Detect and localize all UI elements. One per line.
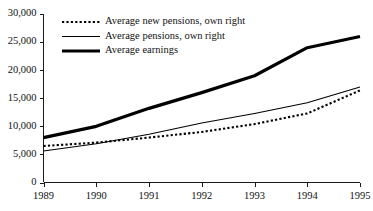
chart-svg: 05,00010,00015,00020,00025,00030,000 198… xyxy=(0,0,373,211)
y-tick-label: 15,000 xyxy=(8,92,37,103)
x-tick-label: 1990 xyxy=(86,190,107,201)
y-tick-label: 10,000 xyxy=(8,120,37,131)
y-tick-label: 30,000 xyxy=(8,7,37,18)
legend-label-2: Average earnings xyxy=(105,44,178,55)
x-tick-label: 1994 xyxy=(297,190,319,201)
x-tick-label: 1989 xyxy=(33,190,54,201)
chart-legend: Average new pensions, own rightAverage p… xyxy=(62,15,245,55)
y-tick-label: 0 xyxy=(31,176,36,187)
x-tick-label: 1991 xyxy=(139,190,160,201)
y-tick-label: 5,000 xyxy=(13,148,37,159)
x-tick-label: 1992 xyxy=(191,190,212,201)
y-axis-group: 05,00010,00015,00020,00025,00030,000 xyxy=(8,7,44,187)
legend-label-0: Average new pensions, own right xyxy=(105,15,245,26)
line-chart: 05,00010,00015,00020,00025,00030,000 198… xyxy=(0,0,373,211)
y-tick-label: 20,000 xyxy=(8,64,37,75)
legend-label-1: Average pensions, own right xyxy=(105,30,225,41)
x-axis-group: 1989199019911992199319941995 xyxy=(33,183,371,201)
y-tick-label: 25,000 xyxy=(8,35,37,46)
x-tick-group: 1989199019911992199319941995 xyxy=(33,183,371,201)
series-group xyxy=(44,36,361,151)
x-tick-label: 1993 xyxy=(244,190,265,201)
y-tick-group: 05,00010,00015,00020,00025,00030,000 xyxy=(8,7,44,187)
x-tick-label: 1995 xyxy=(350,190,371,201)
series-line-1 xyxy=(44,87,361,151)
series-line-0 xyxy=(44,90,361,146)
